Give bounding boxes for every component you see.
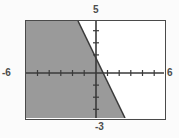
x-min-label: -6 bbox=[2, 68, 11, 78]
y-max-label: 5 bbox=[93, 5, 99, 15]
graph-figure: 5 -6 6 -3 bbox=[0, 0, 179, 138]
coordinate-plane bbox=[26, 21, 164, 118]
shaded-solution-region bbox=[26, 21, 125, 118]
y-min-label: -3 bbox=[95, 122, 104, 132]
x-max-label: 6 bbox=[167, 68, 173, 78]
plot-frame bbox=[25, 20, 166, 120]
